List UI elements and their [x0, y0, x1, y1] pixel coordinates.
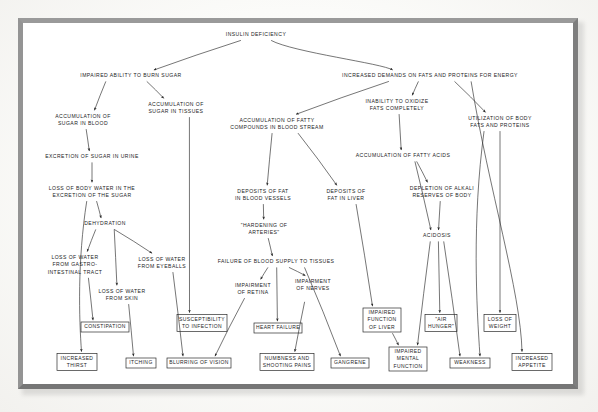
edge-layer [80, 40, 522, 356]
node-label-loss_water_gi: FROM GASTRO- [52, 261, 97, 267]
outcome-label-constipation: CONSTIPATION [84, 323, 126, 329]
node-label-loss_water_eyeballs: LOSS OF WATER [138, 256, 185, 262]
node-label-inability_oxidize: INABILITY TO OXIDIZE [365, 98, 428, 104]
node-label-loss_water_gi: INTESTINAL TRACT [48, 269, 103, 275]
node-label-increased_demands: INCREASED DEMANDS ON FATS AND PROTEINS F… [342, 72, 518, 78]
node-label-inability_oxidize: FATS COMPLETELY [370, 105, 425, 111]
edge-impaired_burn-to-accum_sugar_tissues [147, 81, 164, 98]
edge-dehydration-to-loss_water_skin [114, 229, 117, 285]
edge-acidosis-to-impaired_mental [418, 241, 431, 345]
label-layer: INSULIN DEFICIENCYIMPAIRED ABILITY TO BU… [45, 31, 548, 368]
edge-loss_body_water-to-dehydration [97, 201, 102, 218]
outcome-label-increased_thirst: INCREASED [61, 355, 94, 361]
edge-dehydration-to-loss_water_gi [87, 229, 96, 251]
outcome-label-gangrene: GANGRENE [334, 359, 366, 365]
node-label-deposits_fat_vessels: IN BLOOD VESSELS [235, 195, 291, 201]
edge-increased_demands-to-inability_oxidize [412, 81, 418, 95]
flowchart-svg: INSULIN DEFICIENCYIMPAIRED ABILITY TO BU… [0, 0, 598, 412]
node-label-impaired_burn: IMPAIRED ABILITY TO BURN SUGAR [80, 72, 181, 78]
node-label-deposits_fat_liver: FAT IN LIVER [328, 195, 365, 201]
node-label-failure_blood_supply: FAILURE OF BLOOD SUPPLY TO TISSUES [218, 258, 335, 264]
outcome-label-air_hunger: HUNGER" [428, 323, 454, 329]
outcome-label-impaired_liver: IMPAIRED [369, 309, 396, 315]
node-label-loss_water_skin: FROM SKIN [106, 295, 138, 301]
node-label-loss_water_gi: LOSS OF WATER [51, 254, 98, 260]
node-label-accum_sugar_blood: SUGAR IN BLOOD [58, 120, 108, 126]
edge-impaired_liver-to-impaired_mental [392, 333, 398, 345]
node-label-utilization_body: FATS AND PROTEINS [470, 122, 530, 128]
node-label-accum_sugar_blood: ACCUMULATION OF [55, 113, 111, 119]
node-label-loss_body_water: EXCRETION OF THE SUGAR [52, 192, 131, 198]
outcome-label-impaired_mental: IMPAIRED [395, 348, 422, 354]
node-label-accum_fatty_compounds: COMPOUNDS IN BLOOD STREAM [230, 124, 323, 130]
edge-failure_blood_supply-to-heart_failure [277, 267, 278, 321]
node-label-impairment_nerves: IMPAIRMENT [295, 278, 331, 284]
edge-accum_fatty_compounds-to-deposits_fat_vessels [267, 133, 272, 185]
edge-dehydration-to-loss_water_eyeballs [114, 229, 152, 253]
node-label-deposits_fat_liver: DEPOSITS OF [326, 188, 365, 194]
edge-loss_water_skin-to-itching [129, 304, 134, 356]
outcome-label-increased_thirst: THIRST [67, 362, 87, 368]
edge-increased_demands-to-utilization_body [455, 81, 486, 112]
outcome-label-air_hunger: "AIR [435, 316, 447, 322]
edge-failure_blood_supply-to-impairment_nerves [289, 267, 305, 275]
edge-failure_blood_supply-to-impairment_retina [261, 267, 268, 279]
outcome-label-itching: ITCHING [129, 359, 152, 365]
node-label-loss_body_water: LOSS OF BODY WATER IN THE [49, 185, 135, 191]
node-label-excretion_sugar_urine: EXCRETION OF SUGAR IN URINE [45, 153, 139, 159]
node-label-loss_water_skin: LOSS OF WATER [98, 288, 145, 294]
edge-loss_water_gi-to-constipation [88, 278, 93, 320]
edge-accum_fatty_acids-to-depletion_alkali [417, 161, 428, 182]
node-label-deposits_fat_vessels: DEPOSITS OF FAT [237, 188, 288, 194]
edge-acidosis-to-weakness [444, 241, 460, 356]
outcome-label-numbness_shooting: SHOOTING PAINS [263, 362, 312, 368]
node-label-utilization_body: UTILIZATION OF BODY [468, 115, 532, 121]
outcome-label-increased_appetite: INCREASED [516, 355, 549, 361]
node-label-impairment_nerves: OF NERVES [296, 285, 330, 291]
node-label-dehydration: DEHYDRATION [84, 220, 126, 226]
node-label-depletion_alkali: RESERVES OF BODY [412, 192, 471, 198]
outcome-label-heart_failure: HEART FAILURE [256, 324, 300, 330]
edge-depletion_alkali-to-acidosis [439, 201, 441, 230]
edge-insulin_deficiency-to-increased_demands [271, 40, 393, 70]
node-label-accum_sugar_tissues: ACCUMULATION OF [148, 101, 204, 107]
outcome-label-impaired_mental: MENTAL [397, 355, 419, 361]
outcome-label-loss_weight: LOSS OF [488, 316, 512, 322]
edge-impaired_burn-to-accum_sugar_blood [94, 81, 105, 110]
node-label-depletion_alkali: DEPLETION OF ALKALI [410, 185, 474, 191]
node-label-hardening_arteries: ARTERIES" [248, 229, 279, 235]
node-label-loss_water_eyeballs: FROM EYEBALLS [138, 263, 186, 269]
node-label-impairment_retina: IMPAIRMENT [235, 282, 271, 288]
node-label-hardening_arteries: "HARDENING OF [241, 222, 288, 228]
edge-utilization_body-to-weakness [476, 131, 484, 356]
outcome-label-weakness: WEAKNESS [454, 359, 486, 365]
outcome-label-impaired_liver: OF LIVER [369, 324, 395, 330]
edge-accum_fatty_compounds-to-deposits_fat_liver [298, 133, 337, 185]
outcome-label-impaired_mental: FUNCTION [393, 363, 422, 369]
outcome-label-impaired_liver: FUNCTION [367, 316, 396, 322]
diagram-canvas: INSULIN DEFICIENCYIMPAIRED ABILITY TO BU… [0, 0, 598, 412]
outcome-label-numbness_shooting: NUMBNESS AND [265, 355, 310, 361]
edge-accum_sugar_blood-to-excretion_sugar_urine [86, 129, 89, 151]
outcome-label-loss_weight: WEIGHT [489, 323, 511, 329]
node-label-impairment_retina: OF RETINA [237, 289, 268, 295]
outcome-label-blurring_vision: BLURRING OF VISION [169, 359, 229, 365]
edge-insulin_deficiency-to-impaired_burn [154, 40, 241, 70]
node-label-accum_fatty_acids: ACCUMULATION OF FATTY ACIDS [356, 152, 451, 158]
node-label-accum_fatty_compounds: ACCUMULATION OF FATTY [239, 117, 314, 123]
node-label-acidosis: ACIDOSIS [423, 232, 451, 238]
edge-hardening_arteries-to-failure_blood_supply [268, 238, 272, 256]
outcome-label-susceptibility: SUSCEPTIBILITY [179, 316, 225, 322]
edge-deposits_fat_liver-to-impaired_liver [356, 204, 372, 306]
edge-acidosis-to-air_hunger [438, 241, 439, 312]
node-label-accum_sugar_tissues: SUGAR IN TISSUES [149, 108, 204, 114]
outcome-label-susceptibility: TO INFECTION [182, 323, 222, 329]
edge-inability_oxidize-to-accum_fatty_acids [399, 114, 401, 150]
outcome-label-increased_appetite: APPETITE [518, 362, 546, 368]
node-label-insulin_deficiency: INSULIN DEFICIENCY [226, 31, 287, 37]
